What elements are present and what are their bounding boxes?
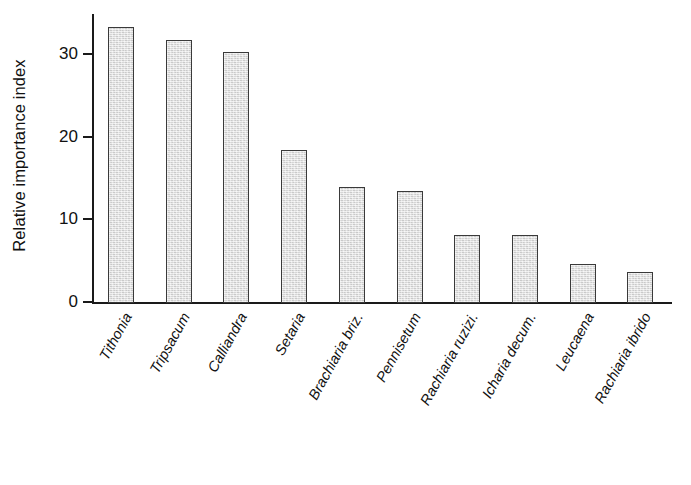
- x-axis-label-text: Setaria: [272, 310, 308, 358]
- bar: [108, 27, 134, 303]
- x-axis-label-text: Pennisetum: [372, 310, 423, 385]
- x-axis-label-text: Brachiaria briz.: [305, 310, 366, 402]
- x-axis-label-text: Rachiaria ruzizi.: [417, 310, 481, 408]
- y-tick-30: 30: [83, 53, 92, 55]
- x-axis-label-text: Calliandra: [205, 310, 251, 375]
- bar: [223, 52, 249, 303]
- bar: [454, 235, 480, 303]
- y-tick-0: 0: [83, 301, 92, 303]
- bar: [281, 150, 307, 303]
- bar: [397, 191, 423, 303]
- bar: [570, 264, 596, 303]
- y-axis-line: [92, 14, 94, 304]
- y-tick-20: 20: [83, 136, 92, 138]
- y-axis-title: Relative importance index: [2, 0, 36, 310]
- y-axis-title-text: Relative importance index: [10, 59, 29, 251]
- y-tick-10: 10: [83, 218, 92, 220]
- y-tick-label-30: 30: [59, 44, 78, 64]
- y-tick-label-0: 0: [69, 292, 78, 312]
- bar: [166, 40, 192, 303]
- bar: [627, 272, 653, 303]
- bar: [339, 187, 365, 303]
- y-tick-label-20: 20: [59, 126, 78, 146]
- bar-chart: Relative importance index 0102030 Tithon…: [0, 0, 691, 485]
- x-axis-label-text: Icharia decum.: [479, 310, 539, 401]
- plot-area: 0102030: [92, 14, 672, 304]
- x-axis-labels: TithoniaTripsacumCalliandraSetariaBrachi…: [92, 306, 672, 484]
- x-axis-label-text: Tithonia: [96, 310, 135, 363]
- x-axis-label-text: Tripsacum: [146, 310, 192, 376]
- x-axis-label-text: Rachiaria ibrido: [591, 310, 654, 406]
- bar: [512, 235, 538, 303]
- y-tick-label-10: 10: [59, 209, 78, 229]
- x-axis-label-text: Leucaena: [552, 310, 597, 373]
